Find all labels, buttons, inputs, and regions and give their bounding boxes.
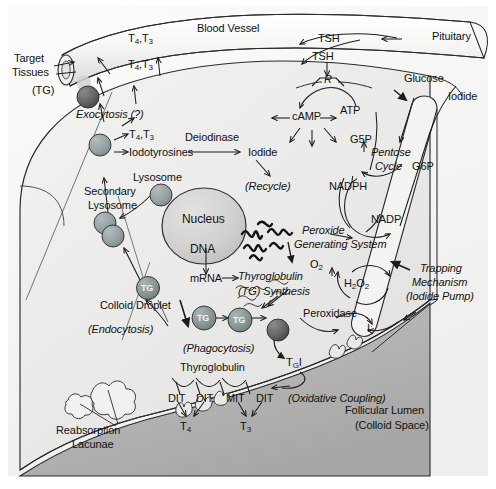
camp-label: cAMP [292,110,321,122]
trapping-line1: Trapping [420,262,462,274]
hormone-vesicle [89,134,111,156]
recycle-label: (Recycle) [245,180,291,192]
reabsorption-line2: Lacunae [72,438,114,450]
iodotyrosines-label: Iodotyrosines [129,146,193,158]
colloid-droplet-label: Colloid Droplet [100,299,171,311]
deiodinase-label: Deiodinase [185,131,239,143]
g5p-label: G5P [350,133,372,145]
iodide-label: Iodide [448,90,477,102]
secondary-lysosome-line2: Lysosome [88,199,137,211]
t4-t3-vesicle: T4,T3 [129,128,154,143]
residue-dit-1: DIT [168,392,185,404]
follicular-lumen-line1: Follicular Lumen [345,404,424,416]
mrna-label: mRNA [190,272,222,284]
thyroglobulin-synth-line2: (TG) Synthesis [238,285,310,297]
t4-t3-vessel: T4,T3 [128,32,153,47]
g6p-label: G6P [412,160,434,172]
pituitary-label: Pituitary [432,30,471,42]
phagocytosis-label: (Phagocytosis) [183,342,254,354]
follicular-lumen-line2: (Colloid Space) [355,419,429,431]
residue-dit-2: DIT [196,392,213,404]
t4-t3-membrane: T4,T3 [128,58,153,73]
nadp-label: NADP [371,213,401,225]
secondary-lysosome-line1: Secondary [84,185,136,197]
peroxidase-label: Peroxidase [303,307,357,319]
thyroid-follicle-diagram: Blood Vessel Pituitary TSH TSH R Target … [0,0,496,489]
tg-colloid-droplet-text: TG [141,283,153,293]
tsh-at-cell-label: TSH [312,50,334,62]
residue-mit: MIT [226,392,245,404]
oxidative-coupling-label: (Oxidative Coupling) [288,392,386,404]
tg-vesicle-2-text: TG [233,315,245,325]
tsh-receptor-label: R [324,73,332,85]
nucleus-label: Nucleus [182,213,225,226]
trapping-line3: (Iodide Pump) [406,290,474,302]
h2o2-label: H2O2 [344,277,369,292]
pentose-cycle-line1: Pentose [371,146,411,158]
product-t3-label: T3 [240,420,251,435]
blood-vessel-label: Blood Vessel [197,22,259,34]
residue-dit-3: DIT [256,392,273,404]
glucose-label: Glucose [404,72,444,84]
tg-vesicle-1-text: TG [197,313,209,323]
pentose-cycle-line2: Cycle [375,160,402,172]
lumen-thyroglobulin-label: Thyroglobulin [180,361,245,373]
iodine-radical-label: I· [367,322,373,334]
trapping-line2: Mechanism [412,276,467,288]
lysosome-label: Lysosome [133,171,182,183]
product-t4-label: T4 [180,420,191,435]
lysosome-vesicle [150,184,172,206]
tsh-in-vessel-label: TSH [318,32,340,44]
tg-iodine-label: TGI [286,356,302,371]
exocytosis-label: Exocytosis (?) [76,108,144,120]
peroxide-system-line2: Generating System [294,238,386,250]
atp-label: ATP [340,104,360,116]
peroxide-system-line1: Peroxide [302,224,345,236]
target-tissues-tg: (TG) [32,84,54,96]
o2-label: O2 [310,258,323,273]
iodide-recycle-label: Iodide [248,146,277,158]
target-tissues-line2: Tissues [12,66,49,78]
nadph-label: NADPH [329,180,367,192]
dna-label: DNA [190,243,215,256]
reabsorption-line1: Reabsorption [56,424,120,436]
thyroglobulin-synth-line1: Thyroglobulin [238,270,303,282]
endocytosis-label: (Endocytosis) [88,323,153,335]
target-tissues-line1: Target [14,52,44,64]
